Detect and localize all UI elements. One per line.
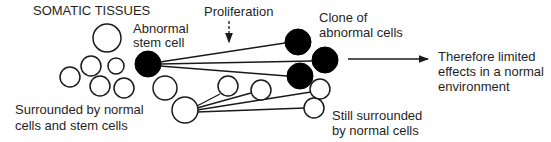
label-abnormal-1: Abnormal — [133, 21, 189, 36]
normal-cells-left — [60, 24, 134, 98]
label-clone-2: abnormal cells — [319, 25, 403, 40]
normal-cell — [81, 56, 101, 76]
normal-cell — [251, 80, 271, 100]
label-abnormal-2: stem cell — [133, 35, 184, 50]
normal-cell — [304, 98, 324, 118]
label-surrounded-2: cells and stem cells — [15, 118, 128, 133]
label-therefore-1: Therefore limited — [438, 49, 536, 64]
normal-cell — [108, 58, 124, 74]
label-clone-1: Clone of — [319, 10, 367, 25]
title: SOMATIC TISSUES — [33, 3, 150, 18]
normal-cell — [93, 24, 121, 52]
label-therefore-3: environment — [438, 79, 510, 94]
normal-cell — [90, 76, 110, 96]
label-still-1: Still surrounded — [332, 108, 422, 123]
normal-cell — [153, 76, 177, 100]
clone-cell — [285, 29, 311, 55]
normal-cell — [218, 76, 238, 96]
clone-cell — [287, 63, 313, 89]
normal-cell — [60, 67, 80, 87]
clone-cell — [312, 47, 338, 73]
label-proliferation: Proliferation — [204, 4, 273, 19]
abnormal-stem-cell — [135, 51, 161, 77]
normal-cell — [310, 79, 330, 99]
label-still-2: by normal cells — [332, 123, 419, 138]
normal-cell — [172, 97, 198, 123]
label-surrounded-1: Surrounded by normal — [15, 102, 144, 117]
normal-cell — [114, 78, 134, 98]
label-therefore-2: effects in a normal — [438, 64, 544, 79]
